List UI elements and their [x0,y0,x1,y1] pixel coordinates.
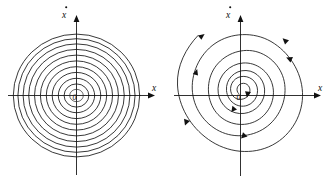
panel-spiral-phase-portrait: 0 x x [168,0,335,182]
direction-arrow-icon [245,91,251,97]
phase-portrait-figure: 0 x x [0,0,335,182]
direction-arrow-icon [231,106,237,112]
origin-label: 0 [237,93,241,102]
vertical-axis-label: x [61,6,67,20]
dot-accent-icon [65,6,67,8]
origin-label: 0 [73,93,77,102]
vertical-axis-label-text: x [61,10,67,20]
horizontal-axis-label: x [317,83,323,93]
direction-arrow-group [184,34,293,139]
horizontal-axis [8,93,155,99]
direction-arrow-icon [198,34,205,40]
horizontal-axis-label: x [151,83,157,93]
panel-center-phase-portrait: 0 x x [0,0,167,182]
direction-arrow-icon [283,38,289,44]
vertical-axis-label: x [225,6,231,20]
dot-accent-icon [229,6,231,8]
vertical-axis-label-text: x [225,10,231,20]
